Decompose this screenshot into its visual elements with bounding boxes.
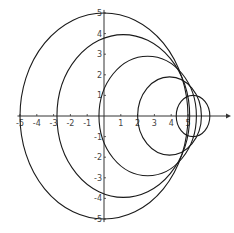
x-tick-label: -3 — [50, 119, 58, 128]
y-tick-label: 4 — [97, 30, 102, 39]
x-axis-arrow-icon — [226, 114, 231, 119]
x-tick-label: 1 — [118, 119, 123, 128]
plot-area: -5-4-3-2-11234554321-1-2-3-4-5 — [0, 0, 234, 233]
y-tick-label: 3 — [97, 50, 102, 59]
x-tick-label: 4 — [169, 119, 174, 128]
x-tick-label: -1 — [83, 119, 91, 128]
x-tick-label: -2 — [66, 119, 74, 128]
y-tick-label: -4 — [94, 194, 102, 203]
x-tick-label: -4 — [33, 119, 41, 128]
x-tick-label: 3 — [152, 119, 157, 128]
y-tick-label: -3 — [94, 174, 102, 183]
circles-plot: -5-4-3-2-11234554321-1-2-3-4-5 — [0, 0, 234, 233]
y-tick-label: -5 — [94, 215, 102, 224]
y-tick-label: -2 — [94, 153, 102, 162]
y-tick-label: 2 — [97, 71, 102, 80]
axes — [17, 10, 231, 222]
